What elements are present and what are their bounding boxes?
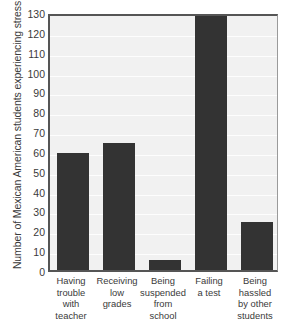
y-tick-label: 100 [17, 68, 45, 80]
bar [149, 260, 181, 270]
bar [57, 153, 89, 270]
x-axis-tick-labels: HavingtroublewithteacherReceivinglowgrad… [48, 275, 278, 333]
plot-area [48, 14, 278, 272]
y-tick-label: 130 [17, 8, 45, 20]
x-tick-label-line: students [227, 310, 283, 322]
y-tick-label: 10 [17, 246, 45, 258]
y-tick-label: 120 [17, 28, 45, 40]
x-tick-label-line: teacher [43, 310, 99, 322]
y-tick-label: 30 [17, 206, 45, 218]
y-tick-label: 70 [17, 127, 45, 139]
x-tick-label-line: hassled [227, 287, 283, 299]
bar [103, 143, 135, 270]
y-tick-label: 80 [17, 107, 45, 119]
x-tick-label-line: by other [227, 298, 283, 310]
y-tick-label: 110 [17, 48, 45, 60]
bars-container [50, 16, 277, 270]
x-tick-label-line: from [135, 298, 191, 310]
y-tick-label: 40 [17, 187, 45, 199]
bar [241, 222, 273, 270]
y-axis-tick-labels: 0102030405060708090100110120130 [17, 14, 45, 272]
x-tick-label: Beinghassledby otherstudents [227, 275, 283, 321]
bar-chart: Number of Mexican American students expe… [0, 0, 287, 333]
bar [195, 16, 227, 270]
y-tick-label: 50 [17, 167, 45, 179]
y-tick-label: 90 [17, 87, 45, 99]
y-tick-label: 60 [17, 147, 45, 159]
y-tick-label: 20 [17, 226, 45, 238]
x-tick-label-line: Being [227, 275, 283, 287]
x-tick-label-line: school [135, 310, 191, 322]
y-tick-label: 0 [17, 266, 45, 278]
